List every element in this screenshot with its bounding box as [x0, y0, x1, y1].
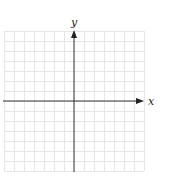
x-axis-label: x [148, 95, 155, 108]
x-axis-arrow-icon [136, 98, 144, 104]
y-axis-label: y [70, 16, 78, 29]
coordinate-plane: x y [0, 0, 174, 189]
